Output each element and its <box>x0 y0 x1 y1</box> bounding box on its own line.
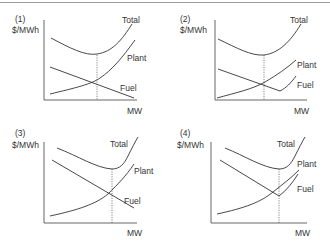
series-label-total: Total <box>290 15 308 25</box>
y-axis-label: $/MWh <box>12 25 39 35</box>
panel-3: (3) $/MWh Total Plant Fuel MW <box>0 122 165 244</box>
plant-curve <box>217 170 299 214</box>
plant-curve <box>50 164 134 216</box>
panel-label: (2) <box>180 14 190 24</box>
y-axis-label: $/MWh <box>12 140 39 150</box>
x-axis-label: MW <box>294 106 309 116</box>
x-axis-label: MW <box>127 106 142 116</box>
x-axis-label: MW <box>295 228 310 238</box>
series-label-total: Total <box>110 139 128 149</box>
total-curve <box>51 24 132 54</box>
series-label-fuel: Fuel <box>124 196 141 206</box>
series-label-plant: Plant <box>134 166 153 176</box>
total-curve <box>218 24 301 55</box>
x-axis-label: MW <box>127 228 142 238</box>
series-label-plant: Plant <box>297 159 316 169</box>
panel-2: (2) $/MWh Total Plant Fuel MW <box>165 0 330 122</box>
panel-label: (1) <box>15 14 25 24</box>
panel-label: (4) <box>180 128 190 138</box>
series-label-fuel: Fuel <box>120 83 137 93</box>
plant-curve <box>217 60 296 98</box>
series-label-fuel: Fuel <box>297 80 314 90</box>
y-axis-label: $/MWh <box>180 25 207 35</box>
series-label-fuel: Fuel <box>297 184 314 194</box>
fuel-curve <box>218 69 296 91</box>
panel-label: (3) <box>15 128 25 138</box>
panel-1: (1) $/MWh Total Plant Fuel MW <box>0 0 165 122</box>
fuel-curve <box>220 160 298 196</box>
series-label-total: Total <box>122 15 140 25</box>
panel-4: (4) $/MWh Total Plant Fuel MW <box>165 122 330 244</box>
y-axis-label: $/MWh <box>177 140 204 150</box>
fuel-curve <box>52 160 134 208</box>
series-label-total: Total <box>277 139 295 149</box>
series-label-plant: Plant <box>127 53 146 63</box>
series-label-plant: Plant <box>297 60 316 70</box>
